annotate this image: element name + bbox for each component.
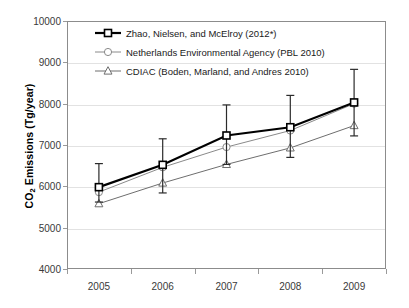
legend-marker-triangle-icon	[95, 64, 121, 78]
legend-item-label: Zhao, Nielsen, and McElroy (2012*)	[126, 28, 277, 39]
x-axis-tick-label: 2006	[133, 281, 193, 292]
data-point-square	[105, 30, 112, 37]
data-point-square	[159, 161, 166, 168]
chart-container: CO2 Emissions (Tg/year) 1000090008000700…	[0, 0, 409, 308]
x-axis-tick-label: 2008	[260, 281, 320, 292]
x-axis-tick-mark	[131, 269, 132, 274]
data-point-triangle	[104, 67, 112, 74]
legend-item: Netherlands Environmental Agency (PBL 20…	[95, 45, 325, 59]
x-axis-tick-label: 2009	[324, 281, 384, 292]
x-axis-tick-mark	[67, 269, 68, 274]
legend-item: CDIAC (Boden, Marland, and Andres 2010)	[95, 64, 309, 78]
data-point-circle	[104, 48, 111, 55]
chart-legend: Zhao, Nielsen, and McElroy (2012*)Nether…	[95, 26, 375, 82]
x-axis-tick-label: 2007	[197, 281, 257, 292]
data-point-square	[95, 184, 102, 191]
x-axis-tick-mark	[195, 269, 196, 274]
legend-marker-square-icon	[95, 26, 121, 40]
data-point-square	[223, 132, 230, 139]
x-axis-tick-label: 2005	[69, 281, 129, 292]
legend-item-label: CDIAC (Boden, Marland, and Andres 2010)	[126, 66, 309, 77]
x-axis-tick-mark	[258, 269, 259, 274]
data-point-square	[287, 124, 294, 131]
legend-marker-circle-icon	[95, 45, 121, 59]
legend-item: Zhao, Nielsen, and McElroy (2012*)	[95, 26, 277, 40]
x-axis-tick-mark	[386, 269, 387, 274]
x-axis-tick-mark	[322, 269, 323, 274]
data-point-square	[351, 99, 358, 106]
legend-item-label: Netherlands Environmental Agency (PBL 20…	[126, 47, 325, 58]
